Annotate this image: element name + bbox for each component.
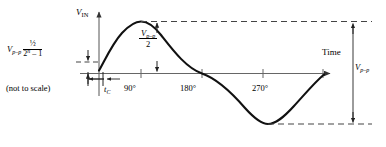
y-axis-label: VIN xyxy=(76,8,88,17)
waveform-figure: VIN Time 90° 180° 270° tC (not to scale)… xyxy=(0,0,386,147)
peak-to-peak-label: Vp–p xyxy=(355,63,369,72)
x-axis-label: Time xyxy=(322,48,341,57)
tick-label-270: 270° xyxy=(252,84,268,93)
half-amplitude-label: Vp–p 2 xyxy=(139,29,157,48)
resolution-step-label: Vp–p ½ 2n – 1 xyxy=(7,40,42,58)
not-to-scale-note: (not to scale) xyxy=(6,84,50,93)
tick-label-180: 180° xyxy=(180,84,196,93)
conversion-time-label: tC xyxy=(104,85,110,94)
tick-label-90: 90° xyxy=(124,84,136,93)
sine-curve xyxy=(99,22,324,125)
waveform-svg xyxy=(0,0,386,147)
